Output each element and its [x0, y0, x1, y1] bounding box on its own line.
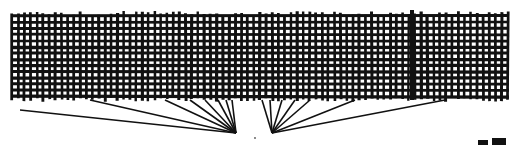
mesh-sunburst-illustration [0, 0, 520, 145]
focus-dot [254, 137, 256, 139]
woven-mesh [11, 10, 509, 102]
